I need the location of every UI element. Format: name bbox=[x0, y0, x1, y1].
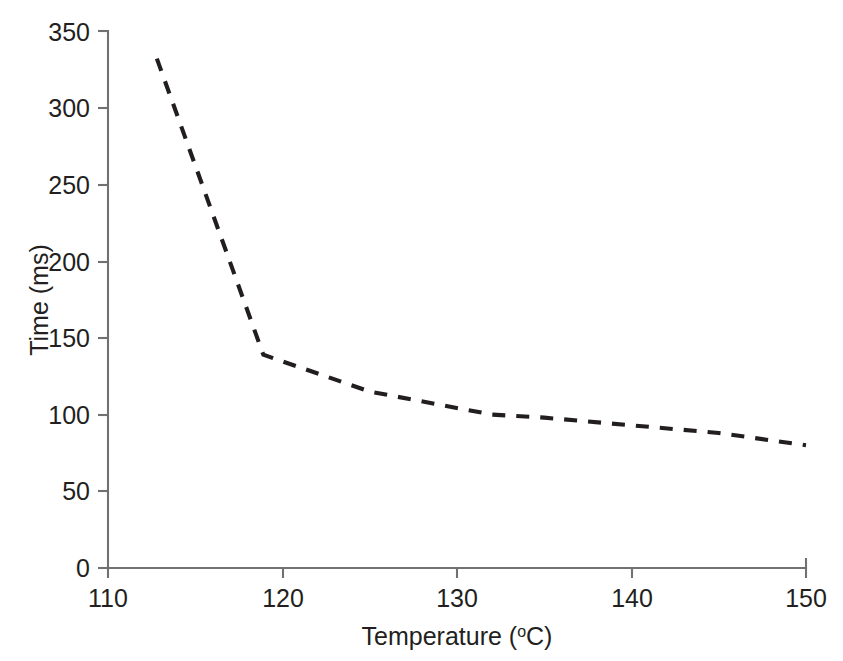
x-tick-marks bbox=[108, 568, 806, 578]
x-tick-labels: 110 120 130 140 150 bbox=[88, 584, 827, 612]
x-tick-label: 110 bbox=[88, 584, 128, 612]
y-tick-label: 100 bbox=[48, 401, 90, 429]
y-tick-label: 200 bbox=[48, 248, 90, 276]
data-series-line bbox=[157, 59, 806, 446]
y-tick-marks bbox=[98, 108, 108, 568]
x-axis-title: Temperature (oC) bbox=[362, 622, 553, 650]
line-chart-canvas: 0 50 100 150 200 250 300 350 110 120 130… bbox=[0, 0, 843, 661]
y-tick-labels: 0 50 100 150 200 250 300 350 bbox=[48, 18, 90, 582]
chart-figure: 0 50 100 150 200 250 300 350 110 120 130… bbox=[0, 0, 843, 661]
y-tick-label: 50 bbox=[62, 477, 90, 505]
y-tick-label: 0 bbox=[76, 554, 90, 582]
y-tick-label: 300 bbox=[48, 94, 90, 122]
x-tick-label: 120 bbox=[262, 584, 304, 612]
y-tick-label: 350 bbox=[48, 18, 90, 46]
x-axis-title-main: Temperature ( bbox=[362, 622, 518, 650]
y-axis-title: Time (ms) bbox=[25, 244, 53, 356]
y-tick-label: 250 bbox=[48, 171, 90, 199]
x-tick-label: 140 bbox=[611, 584, 653, 612]
x-tick-label: 130 bbox=[436, 584, 478, 612]
x-axis-title-degree-symbol: o bbox=[517, 623, 526, 640]
y-tick-label: 150 bbox=[48, 324, 90, 352]
x-tick-label: 150 bbox=[785, 584, 827, 612]
x-axis-title-tail: C) bbox=[526, 622, 552, 650]
